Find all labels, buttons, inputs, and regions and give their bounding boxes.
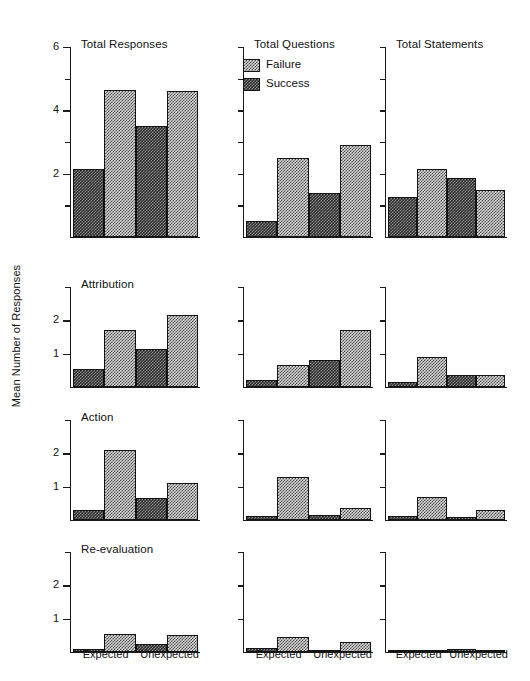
panel-r3-c2	[0, 0, 530, 681]
y-axis-tick	[380, 552, 385, 553]
legend-label-failure: Failure	[266, 58, 301, 70]
figure-bar-chart-grid: Mean Number of Responses 246Total Respon…	[0, 0, 530, 681]
y-axis-line	[385, 552, 386, 653]
legend-swatch-failure-icon	[243, 59, 260, 72]
y-axis-tick	[380, 619, 385, 620]
y-axis-tick	[380, 585, 385, 586]
x-tick-label-unexpected: Unexpected	[434, 648, 524, 660]
legend-swatch-success-icon	[243, 78, 260, 91]
x-tick-label-unexpected: Unexpected	[125, 648, 215, 660]
legend-label-success: Success	[266, 77, 309, 89]
